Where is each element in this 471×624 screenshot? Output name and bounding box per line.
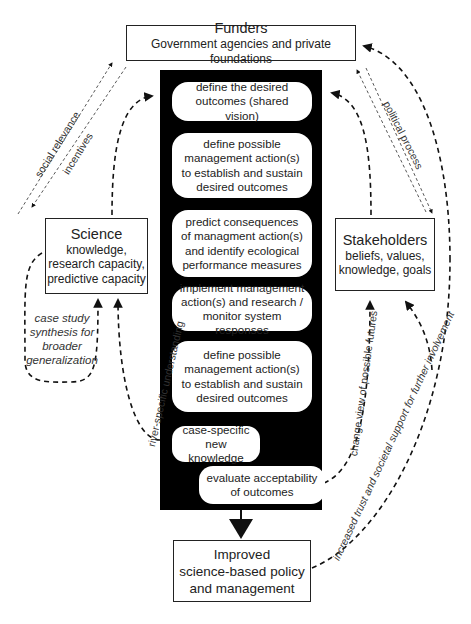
outcome-line-2: science-based policy (174, 563, 310, 580)
outcome-line-1: Improved (174, 546, 310, 563)
step-case-specific-knowledge: case-specific new knowledge (172, 426, 260, 462)
step-evaluate-acceptability: evaluate acceptability of outcomes (199, 466, 325, 504)
label-case-study: case study synthesis for broader general… (26, 311, 98, 367)
step-predict-consequences: predict consequences of managment action… (172, 210, 312, 277)
funders-title: Funders (127, 20, 355, 37)
science-line-3: predictive capacity (46, 272, 147, 287)
stakeholders-line-2: knowledge, goals (336, 263, 434, 278)
science-title: Science (46, 226, 147, 243)
step-define-actions: define possible management action(s) to … (172, 133, 312, 198)
stakeholders-box: Stakeholders beliefs, values, knowledge,… (335, 218, 435, 291)
stakeholders-title: Stakeholders (336, 232, 434, 249)
step-define-actions-2: define possible management action(s) to … (172, 341, 312, 412)
funders-subtitle: Government agencies and private foundati… (127, 37, 355, 66)
panel-to-outcome-arrowhead (229, 519, 253, 539)
outcome-line-3: and management (174, 580, 310, 597)
improved-policy-box: Improved science-based policy and manage… (173, 540, 311, 602)
science-box: Science knowledge, research capacity, pr… (45, 218, 148, 294)
funders-box: Funders Government agencies and private … (126, 25, 356, 61)
step-define-outcomes: define the desired outcomes (shared visi… (172, 82, 312, 121)
science-line-1: knowledge, (46, 243, 147, 258)
step-implement: implement management action(s) and resea… (172, 287, 312, 331)
stakeholders-to-panel-arrow (332, 93, 371, 215)
stakeholders-line-1: beliefs, values, (336, 249, 434, 264)
science-to-panel-arrow (112, 96, 152, 215)
science-line-2: research capacity, (46, 257, 147, 272)
increased-trust-arrow (312, 260, 450, 568)
